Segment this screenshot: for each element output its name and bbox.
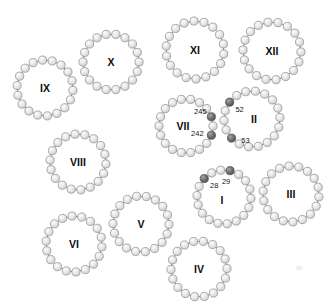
bead — [81, 67, 89, 75]
bead — [99, 169, 107, 177]
bead — [93, 82, 101, 90]
bead — [163, 211, 171, 219]
bead — [173, 247, 181, 255]
bead — [110, 229, 118, 237]
bead — [200, 292, 208, 300]
bead — [270, 213, 278, 221]
bead — [90, 135, 98, 143]
bead — [180, 19, 188, 27]
bead — [241, 177, 249, 185]
bead — [193, 191, 201, 199]
bead — [159, 202, 167, 210]
bead — [295, 58, 303, 66]
bead — [97, 233, 105, 241]
bead — [135, 58, 143, 66]
bead — [264, 206, 272, 214]
bead — [203, 139, 211, 147]
bead — [48, 147, 56, 155]
ring-label-ii: II — [251, 113, 257, 125]
bead — [190, 17, 198, 25]
bead — [48, 57, 56, 65]
bead — [163, 230, 171, 238]
bead — [86, 217, 94, 225]
bead — [133, 67, 141, 75]
bead — [200, 18, 208, 26]
bead — [122, 244, 130, 252]
bead — [29, 59, 37, 67]
bead — [263, 138, 271, 146]
bead — [295, 38, 303, 46]
bead — [260, 197, 268, 205]
bead — [221, 255, 229, 263]
bead — [274, 104, 282, 112]
bead — [165, 32, 173, 40]
bead — [209, 122, 217, 130]
bead — [195, 99, 203, 107]
bead — [187, 148, 195, 156]
ring-label-vii: VII — [177, 120, 190, 132]
bead — [128, 76, 136, 84]
bead — [93, 224, 101, 232]
bead — [262, 75, 270, 83]
bead — [163, 52, 171, 60]
bead — [272, 76, 280, 84]
bead — [275, 123, 283, 131]
bead — [116, 202, 124, 210]
bead — [262, 178, 270, 186]
bead — [182, 73, 190, 81]
ring-label-viii: VIII — [70, 156, 86, 168]
bead — [267, 170, 275, 178]
bead — [219, 40, 227, 48]
bead — [81, 48, 89, 56]
bead — [43, 247, 51, 255]
bead — [62, 133, 70, 141]
bead — [161, 139, 169, 147]
bead — [297, 48, 305, 56]
bead — [102, 160, 110, 168]
bead — [282, 73, 290, 81]
bead — [132, 247, 140, 255]
bead — [215, 31, 223, 39]
bead — [168, 99, 176, 107]
bead-rings-figure: IXXXIXIIVII245242II5253VIIII2829IIIVVIIV — [0, 0, 333, 307]
ring-label-iii: III — [287, 188, 296, 200]
bead — [158, 238, 166, 246]
bead — [66, 96, 74, 104]
bead — [253, 71, 261, 79]
bead — [177, 148, 185, 156]
bead-number-label: 53 — [241, 136, 249, 145]
bead — [133, 48, 141, 56]
bead — [194, 201, 202, 209]
bead — [14, 91, 22, 99]
bead-highlighted — [226, 98, 234, 106]
bead — [59, 214, 67, 222]
bead — [85, 40, 93, 48]
bead — [222, 126, 230, 134]
bead — [155, 122, 163, 130]
bead — [53, 263, 61, 271]
bead — [254, 21, 262, 29]
ring-label-ix: IX — [40, 82, 50, 94]
bead — [46, 156, 54, 164]
bead — [61, 104, 69, 112]
bead — [223, 220, 231, 228]
bead — [64, 68, 72, 76]
bead — [121, 34, 129, 42]
bead — [195, 145, 203, 153]
bead — [216, 247, 224, 255]
ring-label-v: V — [137, 218, 144, 230]
bead — [283, 22, 291, 30]
bead — [274, 19, 282, 27]
bead-number-label: 245 — [194, 107, 207, 116]
bead — [68, 212, 76, 220]
bead — [69, 86, 77, 94]
bead — [289, 66, 297, 74]
bead — [67, 185, 75, 193]
bead — [217, 60, 225, 68]
bead — [208, 169, 216, 177]
bead — [247, 194, 255, 202]
bead — [214, 219, 222, 227]
bead — [162, 42, 170, 50]
bead-number-label: 29 — [222, 177, 230, 186]
bead — [58, 181, 66, 189]
